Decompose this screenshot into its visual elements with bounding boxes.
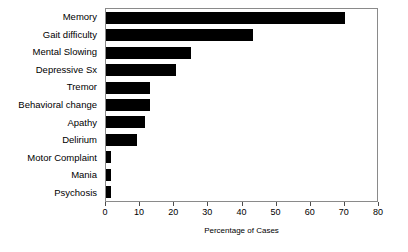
- bar-row: [106, 149, 377, 166]
- x-tick-label: 50: [261, 207, 291, 217]
- bar-behavioral-change: [106, 99, 150, 111]
- bar-row: [106, 61, 377, 78]
- category-label-gait-difficulty: Gait difficulty: [0, 26, 101, 44]
- category-label-delirium: Delirium: [0, 131, 101, 149]
- x-tick-label: 20: [158, 207, 188, 217]
- bar-delirium: [106, 134, 137, 146]
- category-label-memory: Memory: [0, 8, 101, 26]
- plot-area: [105, 8, 378, 202]
- x-tick-label: 10: [124, 207, 154, 217]
- bar-motor-complaint: [106, 151, 111, 163]
- x-tick-label: 60: [295, 207, 325, 217]
- bar-apathy: [106, 116, 145, 128]
- category-axis-labels: Memory Gait difficulty Mental Slowing De…: [0, 8, 101, 202]
- x-tick-label: 0: [90, 207, 120, 217]
- category-label-apathy: Apathy: [0, 114, 101, 132]
- x-tick: [242, 202, 243, 206]
- horizontal-bar-chart: Memory Gait difficulty Mental Slowing De…: [0, 0, 408, 252]
- category-label-mental-slowing: Mental Slowing: [0, 43, 101, 61]
- x-tick: [207, 202, 208, 206]
- bar-row: [106, 184, 377, 201]
- bar-row: [106, 96, 377, 113]
- category-label-behavioral-change: Behavioral change: [0, 96, 101, 114]
- bar-row: [106, 114, 377, 131]
- bar-memory: [106, 12, 345, 24]
- bar-psychosis: [106, 186, 111, 198]
- bar-mania: [106, 169, 111, 181]
- x-tick: [310, 202, 311, 206]
- bar-row: [106, 131, 377, 148]
- category-label-motor-complaint: Motor Complaint: [0, 149, 101, 167]
- bar-row: [106, 26, 377, 43]
- x-axis-title: Percentage of Cases: [105, 226, 378, 235]
- x-tick: [276, 202, 277, 206]
- x-tick: [105, 202, 106, 206]
- bar-gait-difficulty: [106, 29, 253, 41]
- bar-row: [106, 79, 377, 96]
- category-label-mania: Mania: [0, 166, 101, 184]
- bar-depressive-sx: [106, 64, 176, 76]
- x-tick-label: 40: [227, 207, 257, 217]
- x-tick: [344, 202, 345, 206]
- x-tick-label: 70: [329, 207, 359, 217]
- category-label-depressive-sx: Depressive Sx: [0, 61, 101, 79]
- x-tick-label: 80: [363, 207, 393, 217]
- category-label-tremor: Tremor: [0, 78, 101, 96]
- bar-tremor: [106, 82, 150, 94]
- x-tick: [173, 202, 174, 206]
- bar-series: [106, 9, 377, 201]
- x-axis: 01020304050607080: [105, 202, 378, 203]
- bar-row: [106, 9, 377, 26]
- x-tick: [139, 202, 140, 206]
- category-label-psychosis: Psychosis: [0, 184, 101, 202]
- bar-row: [106, 44, 377, 61]
- x-tick-label: 30: [192, 207, 222, 217]
- bar-mental-slowing: [106, 47, 191, 59]
- bar-row: [106, 166, 377, 183]
- x-tick: [378, 202, 379, 206]
